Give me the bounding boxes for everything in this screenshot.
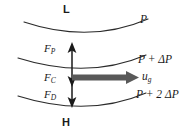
high-pressure-label: H — [62, 117, 70, 128]
geostrophic-balance-diagram: L H P P + ΔP P + 2 ΔP ug FP FC FD — [0, 0, 186, 138]
force-subscript: D — [51, 93, 56, 102]
wind-subscript: g — [148, 75, 152, 84]
coriolis-force-label: FC — [44, 72, 56, 83]
isobar-bottom-label: P + 2 ΔP — [136, 89, 179, 101]
wind-arrow-shaft — [72, 75, 130, 81]
force-symbol: F — [44, 71, 51, 83]
geostrophic-wind-arrow — [72, 71, 139, 84]
pressure-gradient-force-label: FP — [44, 43, 55, 54]
isobar-and-force-vectors — [0, 0, 186, 138]
force-subscript: P — [51, 47, 56, 56]
force-symbol: F — [44, 88, 51, 100]
force-symbol: F — [44, 42, 51, 54]
wind-arrow-head — [126, 71, 139, 84]
isobar-middle-curve — [18, 55, 146, 68]
isobar-curves — [18, 19, 148, 106]
force-subscript: C — [51, 76, 56, 85]
isobar-top-curve — [24, 19, 148, 32]
isobar-bottom-curve — [18, 93, 146, 106]
drag-force-label: FD — [44, 89, 56, 100]
geostrophic-wind-label: ug — [142, 71, 152, 83]
low-pressure-label: L — [63, 4, 70, 15]
isobar-middle-label: P + ΔP — [138, 54, 172, 66]
isobar-top-label: P — [140, 14, 147, 26]
wind-symbol: u — [142, 70, 148, 82]
